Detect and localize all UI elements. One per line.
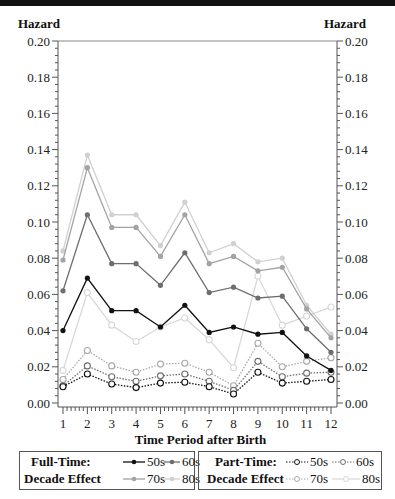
data-point-marker xyxy=(109,322,115,328)
data-point-marker xyxy=(255,369,261,375)
data-point-marker xyxy=(133,385,139,391)
y-tick-label-right: 0.18 xyxy=(345,70,368,85)
data-point-marker xyxy=(85,152,90,157)
series-line-part-time-60s xyxy=(63,361,331,390)
data-point-marker xyxy=(231,391,237,397)
data-point-marker xyxy=(279,364,285,370)
x-tick-label: 5 xyxy=(157,416,164,431)
legend-entry-full-50s: 50s xyxy=(123,454,165,470)
legend-entry-part-50s: 50s xyxy=(286,454,328,470)
data-point-marker xyxy=(231,285,236,290)
data-point-marker xyxy=(158,254,163,259)
y-tick-label-right: 0.02 xyxy=(345,359,368,374)
data-point-marker xyxy=(328,304,334,310)
data-point-marker xyxy=(255,332,260,337)
data-point-marker xyxy=(109,225,114,230)
data-point-marker xyxy=(182,303,187,308)
legend-full-time: Full-Time: Decade Effect 50s 60s 70s 80s xyxy=(19,451,195,490)
data-point-marker xyxy=(328,335,333,340)
data-point-marker xyxy=(109,212,114,217)
x-tick-label: 6 xyxy=(182,416,189,431)
y-tick-label-left: 0.16 xyxy=(27,106,50,121)
data-point-marker xyxy=(109,363,115,369)
y-tick-label-left: 0.08 xyxy=(27,251,50,266)
data-point-marker xyxy=(133,338,139,344)
y-tick-label-right: 0.00 xyxy=(345,396,368,411)
legend-full-time-subheader: Decade Effect xyxy=(24,471,101,487)
y-tick-label-right: 0.10 xyxy=(345,215,368,230)
series-line-part-time-70s xyxy=(63,343,331,386)
data-point-marker xyxy=(109,261,114,266)
data-point-marker xyxy=(133,225,138,230)
data-point-marker xyxy=(85,212,90,217)
data-point-marker xyxy=(206,337,212,343)
series-line-full-time-50s xyxy=(63,278,331,370)
data-point-marker xyxy=(280,265,285,270)
legend-entry-part-60s: 60s xyxy=(332,454,374,470)
y-tick-label-left: 0.18 xyxy=(27,70,50,85)
x-tick-label: 12 xyxy=(325,416,338,431)
x-tick-label: 4 xyxy=(133,416,140,431)
data-point-marker xyxy=(60,257,65,262)
data-point-marker xyxy=(60,376,66,382)
dotted-line-open-marker-icon xyxy=(286,457,308,467)
legend-entry-full-60s: 60s xyxy=(164,454,200,470)
data-point-marker xyxy=(304,353,309,358)
y-tick-label-right: 0.12 xyxy=(345,178,368,193)
series-line-full-time-60s xyxy=(63,215,331,353)
x-tick-label: 1 xyxy=(60,416,67,431)
data-point-marker xyxy=(84,290,90,296)
data-point-marker xyxy=(207,250,212,255)
solid-line-filled-marker-icon xyxy=(123,474,145,484)
data-point-marker xyxy=(133,261,138,266)
data-point-marker xyxy=(255,273,261,279)
y-tick-label-right: 0.04 xyxy=(345,323,368,338)
data-point-marker xyxy=(133,369,139,375)
y-tick-label-left: 0.10 xyxy=(27,215,50,230)
data-point-marker xyxy=(231,241,236,246)
line-chart: 0.000.000.020.020.040.040.060.060.080.08… xyxy=(0,0,395,450)
data-point-marker xyxy=(84,348,90,354)
data-point-marker xyxy=(60,288,65,293)
data-point-marker xyxy=(280,256,285,261)
data-point-marker xyxy=(279,380,285,386)
solid-line-filled-marker-icon xyxy=(164,474,180,484)
data-point-marker xyxy=(182,212,187,217)
legend-full-time-header: Full-Time: xyxy=(31,454,91,470)
data-point-marker xyxy=(255,340,261,346)
data-point-marker xyxy=(255,358,261,364)
legend-part-time: Part-Time: Decade Effect 50s 60s 70s 80s xyxy=(198,451,382,490)
data-point-marker xyxy=(280,294,285,299)
y-tick-label-right: 0.14 xyxy=(345,142,368,157)
x-tick-label: 8 xyxy=(230,416,237,431)
y-tick-label-left: 0.02 xyxy=(27,359,50,374)
data-point-marker xyxy=(133,378,139,384)
data-point-marker xyxy=(133,308,138,313)
data-point-marker xyxy=(304,378,310,384)
legend-entry-part-70s: 70s xyxy=(286,471,328,487)
data-point-marker xyxy=(255,259,260,264)
data-point-marker xyxy=(207,290,212,295)
x-tick-label: 9 xyxy=(255,416,262,431)
x-tick-label: 11 xyxy=(300,416,313,431)
legend-part-time-header: Part-Time: xyxy=(215,454,277,470)
data-point-marker xyxy=(60,367,66,373)
x-tick-label: 7 xyxy=(206,416,213,431)
data-point-marker xyxy=(182,379,188,385)
data-point-marker xyxy=(158,283,163,288)
data-point-marker xyxy=(231,365,237,371)
solid-line-open-marker-icon xyxy=(332,474,360,484)
legend-entry-full-80s: 80s xyxy=(164,471,200,487)
legend-entry-full-70s: 70s xyxy=(123,471,165,487)
y-tick-label-left: 0.04 xyxy=(27,323,50,338)
data-point-marker xyxy=(328,355,334,361)
data-point-marker xyxy=(85,276,90,281)
data-point-marker xyxy=(84,371,90,377)
data-point-marker xyxy=(182,199,187,204)
data-point-marker xyxy=(207,330,212,335)
data-point-marker xyxy=(60,328,65,333)
dotted-line-open-marker-icon xyxy=(286,474,308,484)
data-point-marker xyxy=(255,268,260,273)
y-tick-label-left: 0.06 xyxy=(27,287,50,302)
data-point-marker xyxy=(182,360,188,366)
